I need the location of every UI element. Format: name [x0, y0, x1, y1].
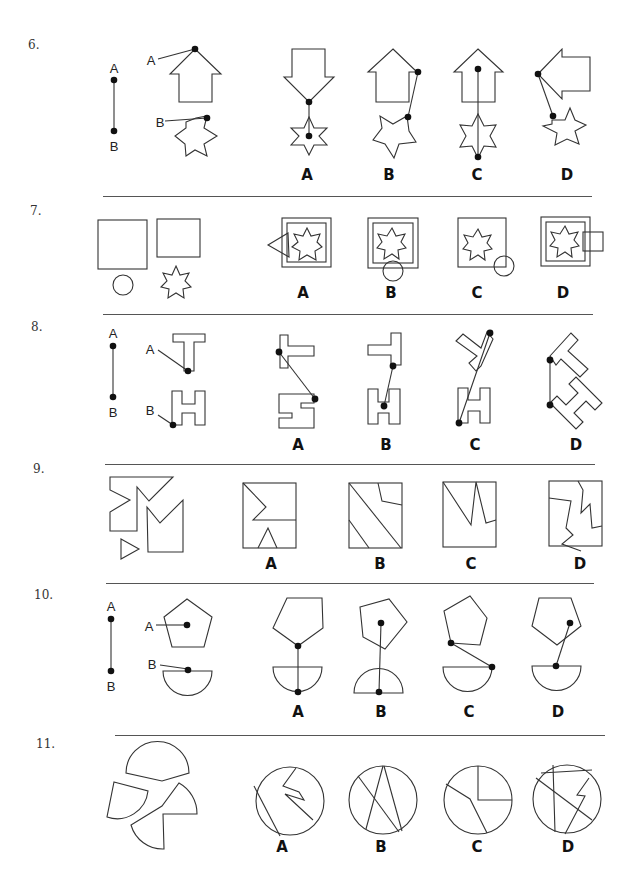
q6-option-d-figure[interactable] [535, 49, 590, 145]
q6-option-c-figure[interactable] [454, 49, 503, 160]
q10-option-d-figure[interactable] [532, 598, 581, 691]
q11-option-c[interactable]: C [471, 838, 482, 856]
q6-given-label-b: B [156, 115, 165, 130]
q6-option-c[interactable]: C [471, 166, 482, 184]
q7-option-a[interactable]: A [297, 284, 309, 302]
q8-given-label-b: B [146, 403, 155, 418]
q9-given-pieces [110, 477, 183, 559]
q9-option-d-figure[interactable] [549, 481, 602, 551]
q8-option-d[interactable]: D [570, 436, 582, 454]
worksheet-page: 6. 7. 8. 9. 10. 11. [0, 0, 634, 872]
q8-given-h [158, 391, 205, 428]
q10-given-label-a: A [145, 619, 154, 634]
q11-option-d[interactable]: D [562, 838, 574, 856]
q9-option-b-figure[interactable] [349, 483, 402, 548]
q7-option-a-figure[interactable] [268, 218, 331, 267]
q8-given-t [158, 334, 205, 374]
q8-key-label-a: A [109, 326, 118, 341]
q6-given-arrow [158, 46, 221, 102]
q6-key-line [111, 77, 118, 135]
diagram-figures [0, 0, 634, 872]
q7-option-d-figure[interactable] [541, 217, 603, 266]
q10-option-b[interactable]: B [375, 703, 386, 721]
q8-option-d-figure[interactable] [547, 333, 602, 429]
q10-given-label-b: B [148, 657, 157, 672]
q6-option-a[interactable]: A [301, 166, 313, 184]
q10-option-a[interactable]: A [292, 703, 304, 721]
q10-option-a-figure[interactable] [273, 598, 323, 695]
q8-key-line [110, 343, 117, 401]
q9-option-c[interactable]: C [465, 555, 476, 573]
q10-key-label-b: B [107, 679, 116, 694]
q10-given-semicircle [160, 665, 212, 696]
q9-option-a-figure[interactable] [243, 483, 296, 548]
q11-option-d-figure[interactable] [533, 765, 601, 834]
q9-option-a[interactable]: A [265, 555, 277, 573]
q11-option-b-figure[interactable] [349, 766, 417, 834]
q10-key-line [108, 616, 115, 675]
q8-option-b[interactable]: B [380, 436, 391, 454]
q9-option-b[interactable]: B [374, 555, 385, 573]
q9-option-d[interactable]: D [574, 555, 586, 573]
q8-option-a-figure[interactable] [276, 335, 319, 428]
q7-option-c-figure[interactable] [458, 218, 514, 276]
q11-given-pieces [107, 742, 197, 850]
q8-option-c-figure[interactable] [456, 330, 494, 427]
q6-key-label-b: B [110, 139, 119, 154]
q10-option-d[interactable]: D [552, 703, 564, 721]
q7-given-pieces [98, 219, 200, 298]
q9-option-c-figure[interactable] [443, 482, 496, 547]
q10-option-c[interactable]: C [463, 703, 474, 721]
q8-option-c[interactable]: C [469, 436, 480, 454]
q7-option-d[interactable]: D [557, 284, 569, 302]
q7-option-b[interactable]: B [385, 284, 396, 302]
q8-option-b-figure[interactable] [368, 333, 401, 424]
q6-option-b-figure[interactable] [368, 49, 421, 158]
q7-option-c[interactable]: C [471, 284, 482, 302]
q11-option-b[interactable]: B [375, 838, 386, 856]
q8-key-label-b: B [109, 405, 118, 420]
q6-option-a-figure[interactable] [284, 49, 334, 155]
q10-given-pentagon [156, 599, 212, 647]
q10-option-c-figure[interactable] [443, 596, 495, 692]
q6-key-label-a: A [110, 61, 119, 76]
q10-option-b-figure[interactable] [354, 599, 407, 695]
q11-option-c-figure[interactable] [444, 766, 512, 834]
q8-given-label-a: A [146, 342, 155, 357]
q6-option-d[interactable]: D [561, 166, 573, 184]
q6-given-label-a: A [147, 53, 156, 68]
q7-option-b-figure[interactable] [368, 218, 418, 281]
q11-option-a-figure[interactable] [254, 767, 324, 836]
q10-key-label-a: A [107, 599, 116, 614]
q6-option-b[interactable]: B [383, 166, 394, 184]
q6-given-star [165, 115, 217, 156]
q11-option-a[interactable]: A [276, 838, 288, 856]
q8-option-a[interactable]: A [292, 436, 304, 454]
